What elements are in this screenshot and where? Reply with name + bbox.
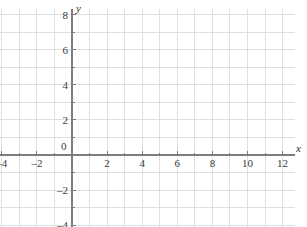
- y-axis-tick-label: 8: [0, 10, 68, 21]
- labels-layer: –4–2024681012 8642–2–4 x y: [0, 0, 307, 227]
- coordinate-plane-graph: –4–2024681012 8642–2–4 x y: [0, 0, 307, 227]
- x-axis-tick-label: 10: [242, 158, 253, 169]
- x-axis-tick-label: 8: [210, 158, 216, 169]
- x-axis-tick-label: 0: [61, 141, 67, 152]
- y-axis-tick-label: 4: [0, 80, 68, 91]
- x-axis-tick-label: –2: [31, 158, 42, 169]
- x-axis-tick-label: 6: [175, 158, 181, 169]
- y-axis-tick-label: –2: [0, 185, 68, 196]
- y-axis-tick-label: –4: [0, 220, 68, 227]
- y-axis-name-label: y: [76, 3, 81, 14]
- x-axis-tick-label: 2: [104, 158, 110, 169]
- x-axis-tick-label: 12: [277, 158, 288, 169]
- x-axis-name-label: x: [296, 143, 301, 154]
- y-axis-tick-label: 6: [0, 45, 68, 56]
- y-axis-tick-label: 2: [0, 115, 68, 126]
- x-axis-tick-label: –4: [0, 158, 7, 169]
- x-axis-tick-label: 4: [139, 158, 145, 169]
